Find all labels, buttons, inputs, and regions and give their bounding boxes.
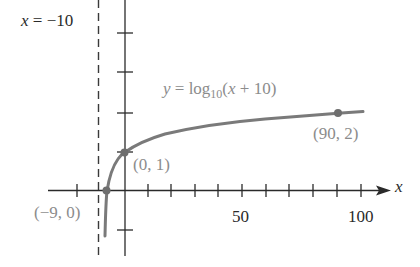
point-label-0-1: (0, 1) (133, 156, 170, 173)
asymptote-label: x = −10 (21, 12, 73, 29)
function-label-eq: = log (171, 79, 211, 98)
asymptote-label-var: x (21, 11, 29, 30)
x-tick-label-50: 50 (232, 208, 249, 225)
function-label: y = log10(x + 10) (163, 80, 276, 100)
point-label-90-2: (90, 2) (313, 125, 358, 142)
point-90-2 (334, 109, 342, 117)
function-label-base: 10 (210, 87, 222, 101)
point-0-1 (121, 149, 129, 157)
function-label-rest: + 10) (236, 79, 277, 98)
x-tick-label-100: 100 (348, 208, 374, 225)
point-label-neg9-0: (−9, 0) (34, 204, 80, 221)
function-label-x: x (228, 79, 236, 98)
point-neg9-0 (103, 187, 111, 195)
x-axis-label: x (395, 178, 403, 195)
function-label-y: y (163, 79, 171, 98)
asymptote-label-value: = −10 (29, 11, 74, 30)
